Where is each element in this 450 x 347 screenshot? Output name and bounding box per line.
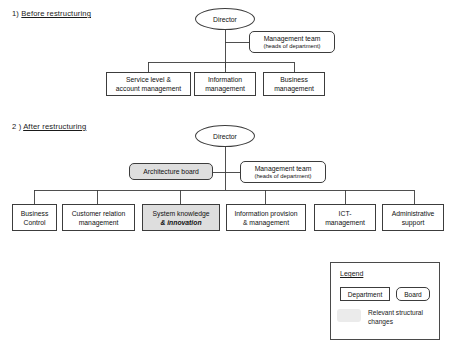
legend-item-department: Department [340, 287, 390, 301]
node-label-line2: management [274, 84, 314, 93]
node-architecture-board[interactable]: Architecture board [129, 163, 213, 180]
node-label-line2: (heads of department) [263, 43, 320, 51]
node-system-knowledge-innovation[interactable]: System knowledge & innovation [142, 204, 220, 231]
node-label-line1: Business [21, 209, 49, 218]
node-label-line1: Administrative [392, 209, 435, 218]
section-heading-before: 1) Before restructuring [12, 9, 91, 18]
node-label: Director [213, 132, 237, 141]
node-label-line1: Management team [264, 34, 321, 43]
section-title-after: After restructuring [23, 122, 86, 131]
legend-item-label: Board [404, 290, 422, 299]
node-service-level-account-management[interactable]: Service level & account management [106, 72, 191, 96]
node-ict-management[interactable]: ICT- management [314, 204, 376, 231]
section-number-after: 2 ) [12, 122, 21, 131]
node-label-line1: Service level & [126, 75, 171, 84]
node-label-line1: ICT- [339, 209, 352, 218]
node-label-line2: management [205, 84, 245, 93]
legend-title: Legend [340, 270, 363, 277]
legend-swatch-relevant-changes [337, 309, 361, 322]
legend-note-relevant-changes: Relevant structural changes [368, 309, 423, 326]
node-label-line1: Information [208, 75, 242, 84]
section-title-before: Before restructuring [21, 9, 91, 18]
node-label-line2: Control [24, 218, 46, 227]
node-label: Director [213, 15, 237, 24]
node-label-line2: & management [243, 218, 289, 227]
node-management-team-before[interactable]: Management team (heads of department) [249, 31, 335, 53]
node-customer-relation-management[interactable]: Customer relation management [62, 204, 135, 231]
node-information-provision-management[interactable]: Information provision & management [226, 204, 306, 231]
node-management-team-after[interactable]: Management team (heads of department) [240, 161, 326, 183]
node-label-line1: Information provision [234, 209, 297, 218]
node-label-line2: & innovation [160, 218, 201, 227]
node-label-line2: support [402, 218, 425, 227]
legend-item-board: Board [396, 287, 430, 301]
node-label-line2: account management [116, 84, 181, 93]
node-information-management[interactable]: Information management [194, 72, 256, 96]
node-label-line2: (heads of department) [254, 173, 311, 181]
legend-item-label: Department [348, 290, 382, 299]
node-director-after[interactable]: Director [195, 125, 255, 147]
node-label-line2: management [79, 218, 119, 227]
legend-note-line2: changes [368, 318, 423, 327]
node-director-before[interactable]: Director [195, 8, 255, 30]
section-heading-after: 2 ) After restructuring [12, 122, 86, 131]
node-label-line1: Customer relation [72, 209, 126, 218]
node-label-line2: management [325, 218, 365, 227]
node-label-line1: System knowledge [152, 209, 209, 218]
node-label-line1: Business [280, 75, 308, 84]
node-label: Architecture board [143, 167, 199, 176]
node-label-line1: Management team [255, 164, 312, 173]
diagram-canvas: 1) Before restructuring Director Managem… [0, 0, 450, 347]
node-business-management[interactable]: Business management [263, 72, 325, 96]
legend-note-line1: Relevant structural [368, 309, 423, 318]
node-business-control[interactable]: Business Control [12, 204, 57, 231]
section-number-before: 1) [12, 9, 19, 18]
node-administrative-support[interactable]: Administrative support [382, 204, 444, 231]
